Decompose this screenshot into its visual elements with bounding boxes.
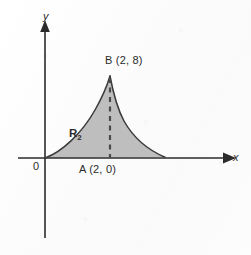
- region-label-subscript: 2: [77, 133, 81, 142]
- x-axis-label: x: [233, 152, 239, 163]
- origin-label: 0: [33, 161, 39, 172]
- y-axis-label: y: [43, 11, 49, 22]
- region-label-r2: R2: [69, 128, 82, 142]
- point-label-a: A (2, 0): [79, 164, 116, 175]
- plot-canvas: [0, 0, 251, 255]
- point-label-b: B (2, 8): [105, 55, 143, 66]
- math-figure: B (2, 8) A (2, 0) 0 R2 x y: [0, 0, 251, 255]
